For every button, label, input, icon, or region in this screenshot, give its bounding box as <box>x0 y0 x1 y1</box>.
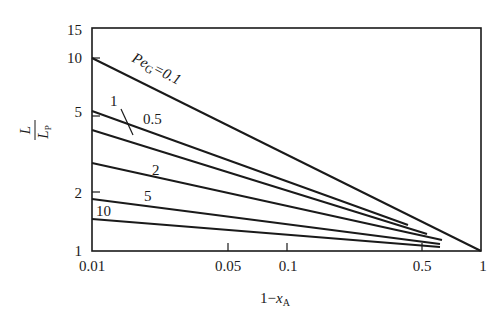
x-tick-label: 0.1 <box>279 258 298 274</box>
plot-frame <box>92 28 481 251</box>
series-line-pe-1 <box>92 130 427 234</box>
x-tick-label: 1 <box>479 258 487 274</box>
series-label-pe-2: 2 <box>152 162 160 178</box>
pe-label-value: =0.1 <box>151 60 184 87</box>
series-label-pe-0.5: 0.5 <box>143 111 162 127</box>
x-axis-title-sub: A <box>283 297 291 308</box>
chart-canvas: 1 2 5 10 15 0.01 0.05 0.1 0.5 1 1−xA L L… <box>0 0 495 320</box>
x-tick-label: 0.01 <box>79 258 105 274</box>
y-ticks <box>92 58 100 192</box>
y-tick-label: 1 <box>75 243 83 259</box>
series-label-pe-1: 1 <box>110 93 118 109</box>
series-label-pe-0.1: PeG=0.1 <box>128 49 184 89</box>
y-tick-label: 10 <box>67 50 82 66</box>
x-tick-labels: 0.01 0.05 0.1 0.5 1 <box>79 258 487 274</box>
y-tick-label: 2 <box>75 185 83 201</box>
y-tick-label: 5 <box>75 104 83 120</box>
series-line-pe-0.5 <box>92 111 408 225</box>
series-line-pe-0.1 <box>92 58 481 251</box>
series-lines <box>92 58 481 251</box>
y-tick-labels: 1 2 5 10 15 <box>67 22 82 259</box>
series-label-pe-10: 10 <box>96 203 111 219</box>
y-axis-title-den-main: L <box>35 130 51 139</box>
x-axis-title: 1−xA <box>260 290 291 308</box>
y-axis-title: L LP <box>17 120 53 140</box>
y-axis-title-den-sub: P <box>43 125 53 130</box>
series-labels: PeG=0.1 0.5 1 2 5 10 <box>96 49 184 219</box>
series-label-pe-5: 5 <box>144 188 152 204</box>
x-axis-title-prefix: 1− <box>260 290 276 306</box>
series-line-pe-10 <box>92 219 440 247</box>
x-tick-label: 0.05 <box>215 258 241 274</box>
y-tick-label: 15 <box>67 22 82 38</box>
x-tick-label: 0.5 <box>413 258 432 274</box>
y-axis-title-denominator: LP <box>35 125 53 139</box>
y-axis-title-numerator: L <box>17 126 33 135</box>
